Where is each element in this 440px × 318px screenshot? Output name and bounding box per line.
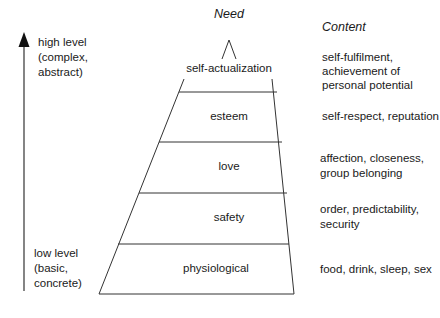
need-safety: safety	[214, 210, 245, 225]
low-level-line-3: concrete)	[34, 276, 82, 291]
content-line: achievement of	[322, 64, 400, 79]
content-line: affection, closeness,	[320, 151, 424, 166]
content-line: order, predictability,	[320, 202, 419, 217]
need-self-actualization: self-actualization	[186, 61, 272, 76]
low-level-line-2: (basic,	[34, 261, 68, 276]
pyramid-apex-left	[222, 40, 229, 59]
low-level-line-1: low level	[34, 246, 78, 261]
high-level-line-3: abstract)	[38, 65, 83, 80]
content-line: group belonging	[320, 166, 403, 181]
content-header: Content	[322, 20, 366, 35]
pyramid-left-side	[99, 79, 184, 294]
pyramid-apex-right	[229, 40, 236, 59]
content-line: food, drink, sleep, sex	[320, 262, 432, 277]
content-line: security	[320, 217, 360, 232]
content-line: self-respect, reputation	[322, 109, 439, 124]
arrow-up-icon	[19, 32, 30, 47]
need-love: love	[218, 159, 239, 174]
content-line: personal potential	[322, 78, 413, 93]
high-level-line-1: high level	[38, 35, 87, 50]
high-level-line-2: (complex,	[38, 50, 88, 65]
need-esteem: esteem	[210, 109, 248, 124]
need-header: Need	[214, 7, 244, 22]
pyramid-right-side	[272, 79, 294, 294]
need-physiological: physiological	[183, 261, 249, 276]
content-line: self-fulfilment,	[322, 50, 393, 65]
